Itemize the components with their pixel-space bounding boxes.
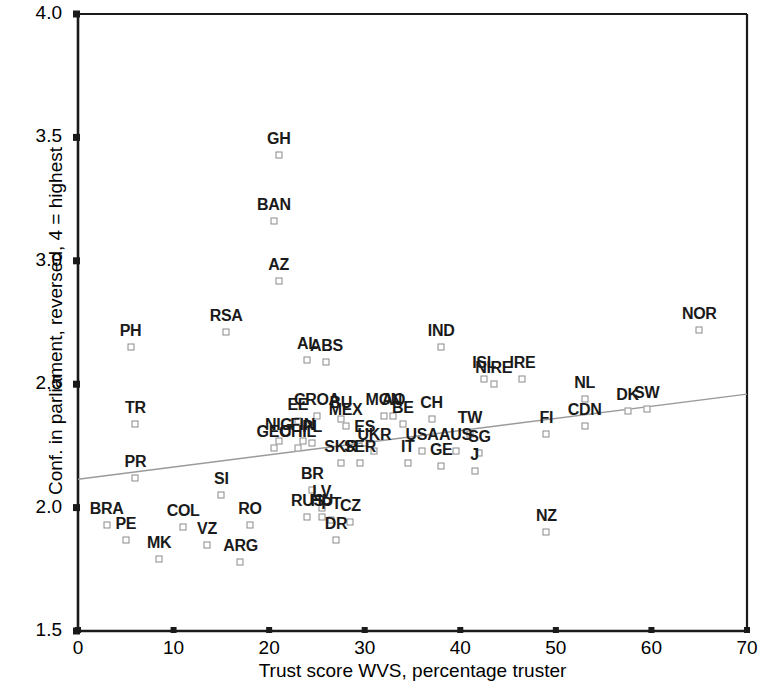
data-point-label: EE [287, 396, 308, 414]
data-point-label: ARG [223, 537, 258, 555]
data-point-marker [275, 277, 282, 284]
data-point-label: FI [539, 409, 553, 427]
data-point-marker [247, 521, 254, 528]
data-point-marker [103, 521, 110, 528]
data-point-label: TW [458, 409, 482, 427]
data-point-marker [624, 408, 631, 415]
data-point-label: BAN [257, 196, 291, 214]
data-point-label: VZ [197, 520, 217, 538]
data-point-marker [323, 358, 330, 365]
data-point-label: J [470, 446, 479, 464]
data-point-label: CH [420, 394, 443, 412]
x-tick-label: 60 [621, 637, 681, 659]
data-point-label: SI [214, 470, 229, 488]
scatter-plot-figure: Conf. in parliament, reversed, 4 = highe… [0, 0, 770, 695]
data-point-marker [428, 415, 435, 422]
data-point-marker [438, 344, 445, 351]
data-point-label: PR [125, 453, 147, 471]
data-point-marker [132, 474, 139, 481]
x-tick-label: 10 [144, 637, 204, 659]
data-point-label: MEX [329, 401, 363, 419]
data-point-label: PE [115, 515, 136, 533]
data-point-marker [127, 344, 134, 351]
data-point-label: ABS [310, 337, 343, 355]
data-point-marker [304, 356, 311, 363]
data-point-marker [347, 519, 354, 526]
data-point-label: IT [401, 438, 415, 456]
y-tick-label: 2.0 [6, 496, 62, 518]
data-point-marker [122, 536, 129, 543]
data-point-marker [223, 329, 230, 336]
data-point-label: NZ [536, 507, 557, 525]
data-point-label: IRE [510, 354, 536, 372]
data-point-marker [270, 445, 277, 452]
data-point-label: RSA [210, 307, 243, 325]
data-point-label: BE [392, 399, 414, 417]
data-point-marker [237, 558, 244, 565]
data-point-label: COL [167, 502, 200, 520]
plot-frame [0, 0, 770, 695]
data-point-label: GH [267, 130, 290, 148]
data-point-label: NIRE [475, 359, 512, 377]
data-point-label: NOR [682, 305, 717, 323]
data-point-label: DK [616, 386, 639, 404]
data-point-label: IND [428, 322, 455, 340]
data-point-marker [294, 445, 301, 452]
data-point-label: AZ [268, 256, 289, 274]
data-point-marker [696, 326, 703, 333]
data-point-marker [581, 423, 588, 430]
data-point-marker [643, 405, 650, 412]
data-point-marker [180, 524, 187, 531]
data-point-label: PL [302, 418, 322, 436]
data-point-marker [270, 218, 277, 225]
data-point-marker [519, 376, 526, 383]
data-point-label: CDN [568, 401, 602, 419]
x-tick-label: 0 [48, 637, 108, 659]
y-axis-label: Conf. in parliament, reversed, 4 = highe… [45, 121, 67, 521]
x-tick-label: 30 [335, 637, 395, 659]
data-point-label: CZ [340, 497, 361, 515]
data-point-label: BR [301, 465, 324, 483]
data-point-marker [490, 381, 497, 388]
data-point-label: MK [147, 534, 171, 552]
data-point-marker [275, 151, 282, 158]
data-point-marker [218, 492, 225, 499]
data-point-label: GE [430, 441, 453, 459]
x-tick-label: 40 [430, 637, 490, 659]
data-point-marker [342, 423, 349, 430]
data-point-marker [304, 514, 311, 521]
data-point-marker [438, 462, 445, 469]
data-point-marker [337, 460, 344, 467]
data-point-marker [452, 447, 459, 454]
data-point-marker [156, 556, 163, 563]
x-tick-label: 50 [526, 637, 586, 659]
data-point-marker [404, 460, 411, 467]
data-point-marker [380, 413, 387, 420]
data-point-marker [543, 529, 550, 536]
x-axis-label: Trust score WVS, percentage truster [78, 660, 747, 682]
data-point-label: PH [120, 322, 142, 340]
data-point-marker [471, 467, 478, 474]
y-tick-label: 3.0 [6, 249, 62, 271]
data-point-marker [543, 430, 550, 437]
data-point-label: SG [468, 428, 491, 446]
data-point-label: SER [344, 438, 376, 456]
data-point-marker [356, 460, 363, 467]
data-point-label: DR [325, 515, 348, 533]
data-point-label: RO [238, 500, 261, 518]
data-point-label: TR [125, 399, 146, 417]
data-point-marker [333, 536, 340, 543]
data-point-marker [309, 440, 316, 447]
data-point-label: NL [574, 374, 595, 392]
x-tick-label: 70 [717, 637, 770, 659]
y-tick-label: 3.5 [6, 125, 62, 147]
data-point-marker [419, 447, 426, 454]
x-tick-label: 20 [239, 637, 299, 659]
data-point-marker [204, 541, 211, 548]
data-point-marker [132, 420, 139, 427]
y-tick-label: 2.5 [6, 372, 62, 394]
y-tick-label: 4.0 [6, 2, 62, 24]
data-point-label: PT [321, 495, 341, 513]
